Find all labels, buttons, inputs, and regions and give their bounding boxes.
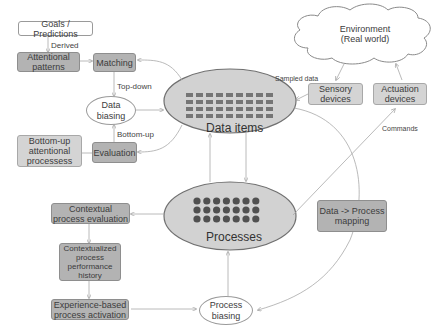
sensory-devices-box: Sensory devices [308,83,363,105]
data-item-mark [186,107,193,111]
data-item-mark [216,107,223,111]
data-item-mark [196,100,203,104]
data-item-mark [236,93,243,97]
data-item-mark [226,114,233,118]
data-items-label: Data items [206,121,263,135]
process-mark [203,215,210,222]
data-item-mark [196,114,203,118]
data-item-mark [226,100,233,104]
processes-label: Processes [206,230,262,244]
process-mark [233,215,240,222]
process-mark [203,197,210,204]
data-item-mark [246,107,253,111]
data-item-mark [216,93,223,97]
goals-predictions-box: Goals / Predictions [18,21,93,36]
data-item-mark [186,114,193,118]
process-mark [223,215,230,222]
data-item-mark [266,93,273,97]
process-mark [242,206,249,213]
matching-box: Matching [93,53,136,72]
process-mark [223,197,230,204]
process-biasing-node: Process biasing [199,296,253,325]
processes-grid [193,197,259,222]
process-mark [252,197,259,204]
actuation-devices-box: Actuation devices [373,83,427,105]
process-mark [193,197,200,204]
data-item-mark [246,114,253,118]
data-item-mark [266,114,273,118]
attentional-patterns-box: Attentional patterns [17,52,80,72]
process-mark [223,206,230,213]
commands-label: Commands [382,125,418,132]
data-item-mark [186,93,193,97]
data-item-mark [206,114,213,118]
edge-dataitems-matching [138,60,182,80]
process-mark [242,197,249,204]
data-item-mark [226,93,233,97]
process-mark [193,206,200,213]
environment-line1: Environment [340,24,391,34]
evaluation-box: Evaluation [92,142,137,163]
process-mark [213,215,220,222]
contextualized-history-box: Contextualized process performance histo… [59,243,121,281]
process-mark [252,215,259,222]
data-item-mark [236,107,243,111]
data-item-mark [196,93,203,97]
process-mark [242,215,249,222]
edge-sensory-dataitems [296,94,308,100]
sampled-data-label: Sampled data [275,75,318,82]
experience-activation-box: Experience-based process activation [51,299,129,320]
data-item-mark [206,107,213,111]
bottom-up-label: Bottom-up [117,130,154,139]
process-mark [213,206,220,213]
data-item-mark [256,107,263,111]
environment-line2: (Real world) [340,34,391,44]
data-item-mark [206,93,213,97]
process-mark [213,197,220,204]
data-item-mark [256,93,263,97]
contextual-evaluation-box: Contextual process evaluation [51,203,130,224]
data-item-mark [256,114,263,118]
derived-label: Derived [51,41,79,50]
data-process-mapping-box: Data -> Process mapping [317,200,387,232]
data-item-mark [226,107,233,111]
data-item-mark [186,100,193,104]
data-item-mark [236,100,243,104]
data-item-mark [266,100,273,104]
data-biasing-node: Data biasing [86,96,136,125]
environment-text: Environment(Real world) [320,20,410,48]
diagram-canvas [0,0,448,336]
data-item-mark [246,100,253,104]
top-down-label: Top-down [117,82,152,91]
data-item-mark [216,100,223,104]
data-item-mark [266,107,273,111]
process-mark [203,206,210,213]
bottom-up-attentional-box: Bottom-up attentional processess [17,135,82,167]
process-mark [193,215,200,222]
edge-actuation-env [396,64,402,80]
process-mark [233,197,240,204]
data-item-mark [256,100,263,104]
data-item-mark [196,107,203,111]
process-mark [233,206,240,213]
data-item-mark [206,100,213,104]
process-mark [252,206,259,213]
data-item-mark [216,114,223,118]
edge-env-sensory [336,64,344,80]
data-item-mark [236,114,243,118]
data-item-mark [246,93,253,97]
